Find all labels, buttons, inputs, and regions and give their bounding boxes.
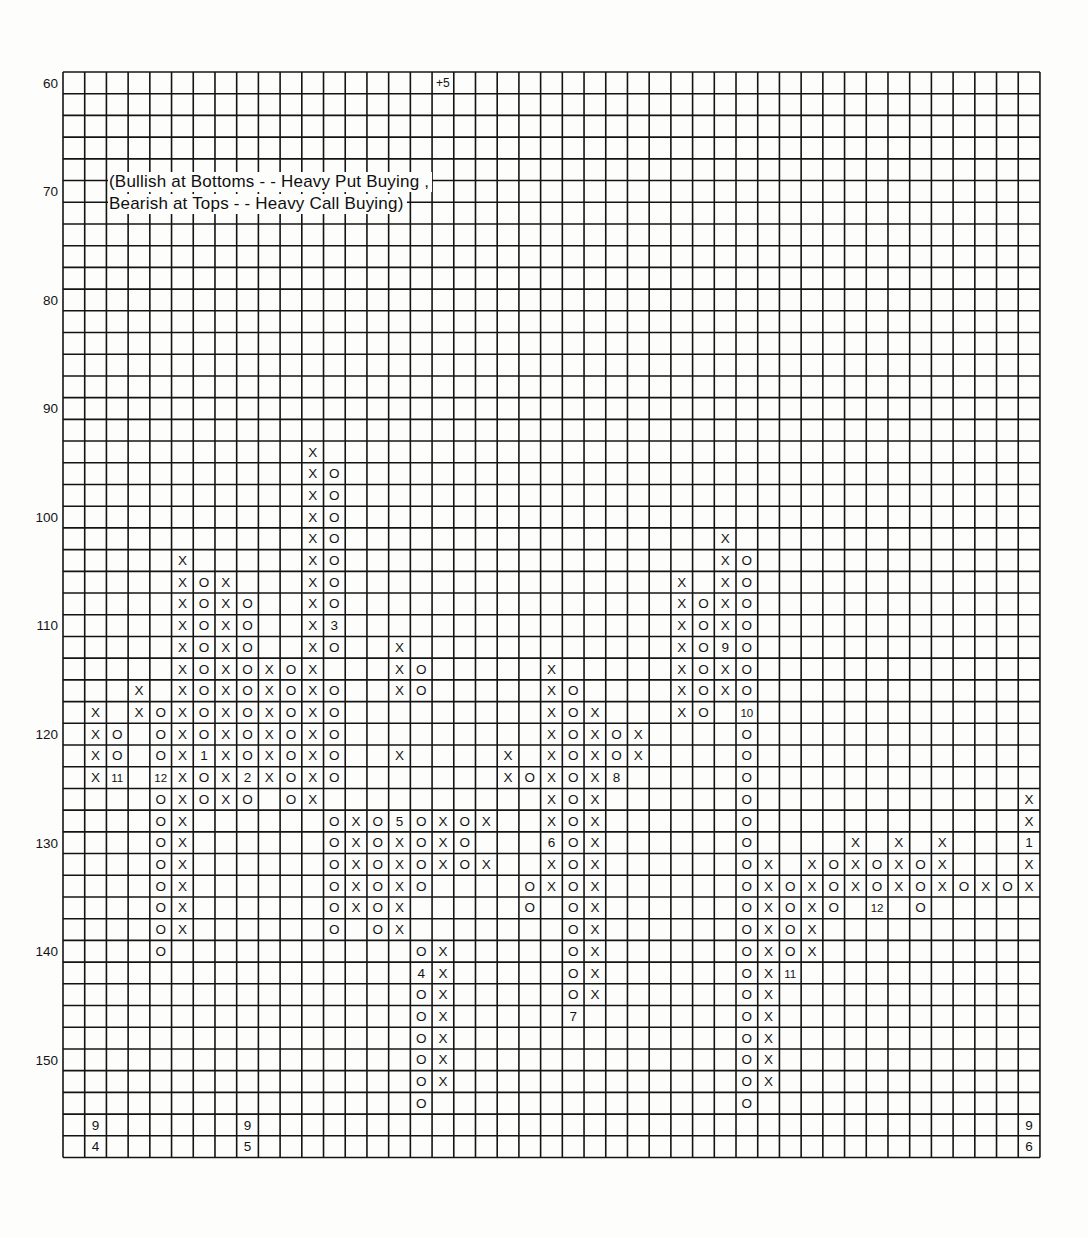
pf-mark: X bbox=[221, 662, 230, 677]
pf-mark: X bbox=[308, 596, 317, 611]
pf-mark: X bbox=[438, 1031, 447, 1046]
pf-mark: X bbox=[807, 944, 816, 959]
pf-mark: O bbox=[155, 748, 166, 763]
pf-mark: X bbox=[265, 727, 274, 742]
price-label: 60 bbox=[43, 76, 58, 91]
pf-mark: O bbox=[698, 683, 709, 698]
price-label: 70 bbox=[43, 184, 58, 199]
pf-mark: X bbox=[308, 683, 317, 698]
pf-mark: O bbox=[1002, 879, 1013, 894]
pf-mark: X bbox=[221, 792, 230, 807]
pf-mark: O bbox=[373, 835, 384, 850]
pf-mark: O bbox=[155, 944, 166, 959]
pf-mark: X bbox=[894, 879, 903, 894]
pf-mark: X bbox=[764, 857, 773, 872]
pf-mark: X bbox=[634, 727, 643, 742]
price-label: 100 bbox=[35, 510, 58, 525]
pf-mark: O bbox=[568, 900, 579, 915]
pf-mark: O bbox=[329, 640, 340, 655]
pf-mark: O bbox=[568, 922, 579, 937]
pf-mark: X bbox=[352, 879, 361, 894]
pf-mark: O bbox=[199, 575, 210, 590]
pf-mark: X bbox=[547, 792, 556, 807]
pf-mark: X bbox=[590, 770, 599, 785]
pf-mark: O bbox=[742, 748, 753, 763]
pf-mark: X bbox=[590, 987, 599, 1002]
pf-mark: X bbox=[395, 640, 404, 655]
pf-mark: X bbox=[677, 705, 686, 720]
pf-mark: X bbox=[395, 748, 404, 763]
pf-mark: X bbox=[894, 835, 903, 850]
pf-mark: O bbox=[242, 662, 253, 677]
pf-mark: O bbox=[416, 683, 427, 698]
pf-mark: O bbox=[199, 640, 210, 655]
pf-mark: O bbox=[742, 683, 753, 698]
pf-mark: O bbox=[373, 879, 384, 894]
pf-mark: X bbox=[590, 835, 599, 850]
pf-mark: X bbox=[265, 705, 274, 720]
pf-mark: O bbox=[742, 575, 753, 590]
pf-mark: O bbox=[742, 857, 753, 872]
pf-mark: O bbox=[742, 770, 753, 785]
pf-mark: O bbox=[742, 662, 753, 677]
pf-mark: X bbox=[1025, 857, 1034, 872]
pf-mark: O bbox=[242, 727, 253, 742]
pf-mark: O bbox=[698, 596, 709, 611]
price-label: 80 bbox=[43, 293, 58, 308]
pf-mark: 7 bbox=[569, 1009, 577, 1024]
pf-mark: X bbox=[547, 857, 556, 872]
pf-mark: X bbox=[590, 792, 599, 807]
pf-mark: X bbox=[352, 900, 361, 915]
pf-mark: O bbox=[742, 553, 753, 568]
pf-mark: X bbox=[764, 1052, 773, 1067]
pf-mark: X bbox=[721, 575, 730, 590]
pf-mark: X bbox=[438, 835, 447, 850]
pf-mark: 9 bbox=[92, 1118, 100, 1133]
pf-mark: X bbox=[308, 531, 317, 546]
pf-mark: O bbox=[373, 922, 384, 937]
pf-mark: O bbox=[698, 662, 709, 677]
pf-mark: X bbox=[764, 900, 773, 915]
pf-mark: O bbox=[742, 922, 753, 937]
pf-mark: O bbox=[611, 727, 622, 742]
pf-mark: X bbox=[265, 748, 274, 763]
pf-mark: X bbox=[308, 727, 317, 742]
pf-mark: O bbox=[742, 727, 753, 742]
pf-mark: O bbox=[698, 618, 709, 633]
pf-mark: O bbox=[568, 944, 579, 959]
pf-mark: X bbox=[308, 770, 317, 785]
pf-mark: X bbox=[308, 466, 317, 481]
pf-mark: X bbox=[395, 662, 404, 677]
pf-mark: X bbox=[1025, 792, 1034, 807]
pf-mark: X bbox=[504, 748, 513, 763]
pf-mark: X bbox=[178, 727, 187, 742]
pf-mark: O bbox=[568, 879, 579, 894]
pf-mark: X bbox=[178, 596, 187, 611]
pf-mark: O bbox=[329, 857, 340, 872]
pf-mark: X bbox=[721, 662, 730, 677]
pf-mark: O bbox=[568, 857, 579, 872]
pf-mark: X bbox=[938, 857, 947, 872]
pf-mark: X bbox=[438, 1052, 447, 1067]
pf-mark: X bbox=[721, 531, 730, 546]
pf-mark: X bbox=[265, 683, 274, 698]
pf-mark: O bbox=[373, 900, 384, 915]
pf-mark: O bbox=[742, 596, 753, 611]
pf-mark: O bbox=[742, 1009, 753, 1024]
pf-mark: X bbox=[308, 488, 317, 503]
pf-mark: O bbox=[329, 770, 340, 785]
pf-mark: O bbox=[199, 596, 210, 611]
pf-mark: O bbox=[915, 900, 926, 915]
pf-mark: X bbox=[134, 683, 143, 698]
pf-mark: X bbox=[764, 922, 773, 937]
pf-mark: O bbox=[742, 1031, 753, 1046]
pf-mark: X bbox=[395, 857, 404, 872]
pf-mark: O bbox=[416, 944, 427, 959]
pf-mark: X bbox=[482, 857, 491, 872]
pf-mark: X bbox=[178, 618, 187, 633]
pf-mark: O bbox=[568, 683, 579, 698]
pf-mark: O bbox=[242, 618, 253, 633]
price-label: 90 bbox=[43, 401, 58, 416]
pf-mark: O bbox=[742, 1052, 753, 1067]
pf-mark: X bbox=[395, 683, 404, 698]
